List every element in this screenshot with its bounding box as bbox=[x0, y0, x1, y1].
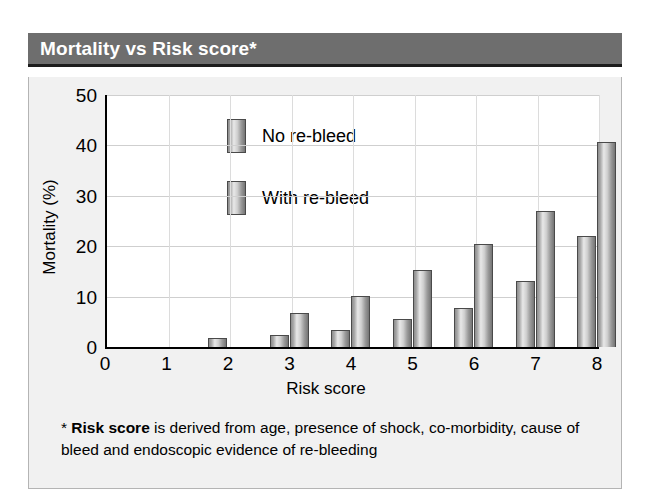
bar-with-re-bleed-4 bbox=[351, 296, 370, 347]
y-tick-label: 40 bbox=[55, 136, 97, 155]
x-axis-ticks: 012345678 bbox=[105, 353, 597, 379]
footnote-line1: is derived from age, presence of shock, … bbox=[150, 419, 517, 436]
bar-with-re-bleed-3 bbox=[290, 313, 309, 347]
page-root: Mortality vs Risk score* Mortality (%) 0… bbox=[0, 0, 649, 503]
gridline-vertical bbox=[292, 95, 293, 347]
x-tick-label: 5 bbox=[398, 353, 428, 375]
x-tick-label: 6 bbox=[459, 353, 489, 375]
bar-with-re-bleed-8 bbox=[597, 142, 616, 347]
chart-header-bar: Mortality vs Risk score* bbox=[28, 33, 622, 67]
x-tick-label: 2 bbox=[213, 353, 243, 375]
x-tick-label: 0 bbox=[90, 353, 120, 375]
legend-item-no-rebleed: No re-bleed bbox=[227, 117, 369, 155]
bar-no-re-bleed-7 bbox=[516, 281, 535, 347]
y-tick-label: 30 bbox=[55, 186, 97, 205]
plot-area-wrapper: Mortality (%) 01020304050 No re-bleed Wi… bbox=[29, 77, 623, 407]
chart-legend: No re-bleed With re-bleed bbox=[227, 117, 369, 241]
bar-no-re-bleed-2 bbox=[208, 338, 227, 347]
bar-no-re-bleed-5 bbox=[393, 319, 412, 347]
bar-no-re-bleed-4 bbox=[331, 330, 350, 347]
legend-label: No re-bleed bbox=[262, 126, 356, 147]
chart-title: Mortality vs Risk score* bbox=[28, 38, 257, 60]
bar-no-re-bleed-6 bbox=[454, 308, 473, 347]
x-tick-label: 7 bbox=[521, 353, 551, 375]
bar-with-re-bleed-7 bbox=[536, 211, 555, 347]
x-tick-label: 1 bbox=[152, 353, 182, 375]
plot-area: No re-bleed With re-bleed bbox=[105, 95, 599, 349]
y-tick-label: 20 bbox=[55, 237, 97, 256]
footnote-bold-term: Risk score bbox=[71, 419, 149, 436]
bar-with-re-bleed-6 bbox=[474, 244, 493, 347]
bar-no-re-bleed-8 bbox=[577, 236, 596, 347]
x-tick-label: 3 bbox=[275, 353, 305, 375]
x-tick-label: 8 bbox=[582, 353, 612, 375]
x-tick-label: 4 bbox=[336, 353, 366, 375]
footnote: * Risk score is derived from age, presen… bbox=[61, 417, 601, 462]
y-tick-label: 50 bbox=[55, 86, 97, 105]
x-axis-label: Risk score bbox=[29, 379, 623, 399]
legend-item-with-rebleed: With re-bleed bbox=[227, 179, 369, 217]
bar-with-re-bleed-5 bbox=[413, 270, 432, 347]
gridline-vertical bbox=[230, 95, 231, 347]
chart-panel: Mortality (%) 01020304050 No re-bleed Wi… bbox=[28, 77, 622, 489]
gridline-vertical bbox=[169, 95, 170, 347]
footnote-marker: * bbox=[61, 419, 67, 436]
bar-no-re-bleed-3 bbox=[270, 335, 289, 347]
y-tick-label: 10 bbox=[55, 287, 97, 306]
